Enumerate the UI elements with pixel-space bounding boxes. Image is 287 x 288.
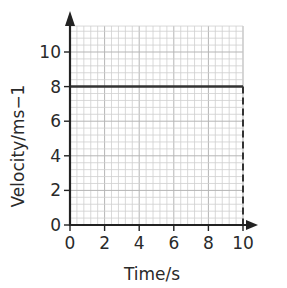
tick-labels: 02468100246810 — [39, 42, 253, 253]
y-tick-label: 10 — [39, 42, 61, 62]
x-tick-label: 0 — [65, 233, 76, 253]
x-axis-arrow-icon — [246, 220, 258, 230]
y-tick-label: 2 — [50, 180, 61, 200]
y-tick-label: 6 — [50, 111, 61, 131]
y-axis-arrow-icon — [65, 11, 75, 26]
x-tick-label: 6 — [168, 233, 179, 253]
x-tick-label: 2 — [99, 233, 110, 253]
y-axis-label: Velocity/ms−1 — [8, 85, 28, 208]
x-axis-label: Time/s — [123, 264, 180, 284]
velocity-time-chart: 02468100246810 Time/s Velocity/ms−1 — [0, 0, 287, 288]
x-tick-label: 8 — [203, 233, 214, 253]
grid — [70, 26, 243, 225]
x-tick-label: 4 — [134, 233, 145, 253]
y-tick-label: 8 — [50, 77, 61, 97]
x-tick-label: 10 — [232, 233, 254, 253]
y-tick-label: 4 — [50, 146, 61, 166]
y-tick-label: 0 — [50, 215, 61, 235]
